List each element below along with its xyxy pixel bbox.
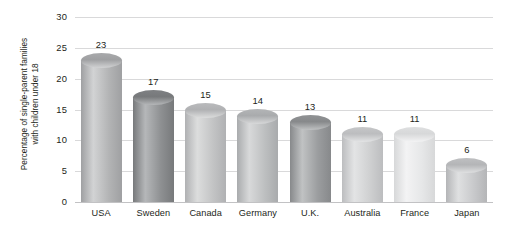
bar-body (133, 97, 174, 202)
bar[interactable] (133, 97, 174, 202)
bar-group-japan[interactable]: 6Japan (446, 17, 487, 202)
x-tick-label: Japan (432, 208, 501, 218)
y-tick-label-30: 30 (3, 11, 67, 22)
bar[interactable] (446, 165, 487, 202)
bar-top-cap (81, 53, 122, 68)
bar-body (342, 134, 383, 202)
bar-body (185, 110, 226, 203)
y-tick-label-20: 20 (3, 73, 67, 84)
bar-value-label: 13 (290, 101, 331, 112)
bar-value-label: 6 (446, 144, 487, 155)
bar-body (290, 122, 331, 202)
plot-area: 051015202530 23USA17Sweden15Canada14Germ… (75, 17, 493, 202)
bar-group-france[interactable]: 11France (394, 17, 435, 202)
bar-body (394, 134, 435, 202)
y-tick-label-5: 5 (3, 165, 67, 176)
bar-value-label: 15 (185, 89, 226, 100)
bar-group-sweden[interactable]: 17Sweden (133, 17, 174, 202)
bar-top-cap (290, 115, 331, 130)
bar-body (81, 60, 122, 202)
bar-group-germany[interactable]: 14Germany (237, 17, 278, 202)
bar-group-australia[interactable]: 11Australia (342, 17, 383, 202)
bar-value-label: 23 (81, 39, 122, 50)
bar[interactable] (290, 122, 331, 202)
gridline-0 (75, 202, 493, 203)
bar[interactable] (185, 110, 226, 203)
y-tick-label-25: 25 (3, 42, 67, 53)
bar-group-canada[interactable]: 15Canada (185, 17, 226, 202)
bar-body (237, 116, 278, 202)
bar-group-u-k[interactable]: 13U.K. (290, 17, 331, 202)
bar-value-label: 17 (133, 76, 174, 87)
bar[interactable] (394, 134, 435, 202)
y-tick-label-0: 0 (3, 196, 67, 207)
bar-value-label: 11 (342, 113, 383, 124)
bar-group-usa[interactable]: 23USA (81, 17, 122, 202)
bar-top-cap (185, 103, 226, 118)
bar[interactable] (342, 134, 383, 202)
bar-value-label: 14 (237, 95, 278, 106)
bar-value-label: 11 (394, 113, 435, 124)
y-tick-label-10: 10 (3, 134, 67, 145)
bar[interactable] (237, 116, 278, 202)
single-parent-families-bar-chart: Percentage of single-parent families wit… (0, 0, 511, 231)
bar-top-cap (237, 109, 278, 124)
bar[interactable] (81, 60, 122, 202)
y-tick-label-15: 15 (3, 104, 67, 115)
